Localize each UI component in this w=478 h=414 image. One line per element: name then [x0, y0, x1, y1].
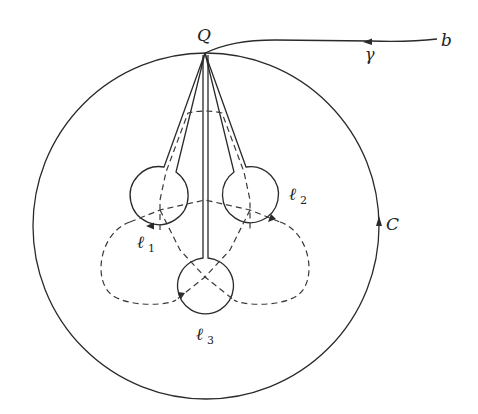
label-b: b: [441, 30, 452, 50]
label-l3: ℓ: [196, 324, 203, 344]
circle-C: [33, 53, 379, 399]
label-l2: ℓ: [289, 184, 296, 204]
arrow-icon-C: [376, 216, 382, 226]
path-gamma: [205, 39, 437, 53]
lasso-l2: [205, 53, 278, 223]
dashed-cross-right: [176, 210, 250, 300]
label-l2-sub: 2: [300, 194, 307, 207]
dashed-loop-top: [160, 111, 250, 230]
lasso-diagram: Q b γ C ℓ 1 ℓ 2 ℓ 3: [0, 0, 478, 414]
lasso-l1: [130, 53, 205, 225]
label-l1-sub: 1: [148, 242, 155, 255]
dashed-cross-left: [160, 210, 234, 300]
label-C: C: [386, 214, 399, 234]
dashed-loop-right: [234, 222, 309, 304]
label-Q: Q: [197, 25, 211, 45]
label-l3-sub: 3: [207, 334, 214, 347]
dashed-cross-horizontal: [130, 200, 280, 222]
label-gamma: γ: [365, 45, 375, 64]
label-l1: ℓ: [137, 232, 144, 252]
